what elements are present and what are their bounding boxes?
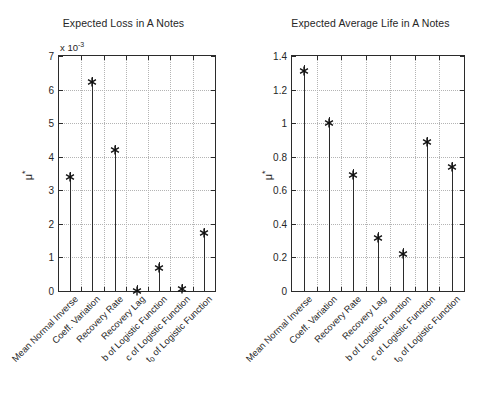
y-axis-label-mu: μ — [22, 174, 34, 180]
plot-area-left: 01234567 — [58, 55, 216, 292]
y-axis-label-star: * — [20, 170, 30, 174]
data-point-marker — [87, 77, 98, 88]
exponent-power: -3 — [78, 41, 84, 48]
data-point-marker — [422, 137, 433, 148]
y-axis-tick-label: 0.8 — [273, 151, 287, 162]
figure-canvas: Expected Loss in A Notes x 10-3 μ* 01234… — [0, 0, 494, 395]
y-axis-tick — [292, 291, 296, 292]
data-point-marker — [176, 284, 187, 295]
chart-title-left: Expected Loss in A Notes — [0, 17, 247, 29]
exponent-mantissa: x 10 — [60, 42, 78, 53]
y-axis-tick-label: 7 — [48, 51, 54, 62]
stem-line — [427, 137, 428, 291]
stem-line — [304, 65, 305, 291]
y-axis-tick-label: 6 — [48, 84, 54, 95]
y-axis-tick-label: 1.2 — [273, 84, 287, 95]
y-axis-tick — [460, 291, 464, 292]
y-axis-tick-label: 2 — [48, 218, 54, 229]
y-axis-label-star: * — [260, 170, 270, 174]
stem-line — [353, 169, 354, 291]
data-point-marker — [446, 162, 457, 173]
data-point-marker — [323, 117, 334, 128]
data-point-marker — [348, 169, 359, 180]
data-point-marker — [373, 232, 384, 243]
data-layer-right — [292, 56, 464, 291]
y-axis-tick — [59, 291, 63, 292]
y-axis-tick-label: 3 — [48, 185, 54, 196]
data-point-marker — [109, 145, 120, 156]
stem-line — [115, 145, 116, 291]
stem-line — [70, 172, 71, 291]
y-axis-tick-label: 1.4 — [273, 51, 287, 62]
stem-line — [452, 162, 453, 291]
y-axis-tick-label: 1 — [281, 118, 287, 129]
data-layer-left — [59, 56, 215, 291]
y-axis-tick — [211, 291, 215, 292]
plot-area-right: 00.20.40.60.811.21.4 — [291, 55, 465, 292]
y-axis-tick-label: 5 — [48, 118, 54, 129]
stem-line — [329, 117, 330, 291]
stem-line — [92, 77, 93, 291]
data-point-marker — [65, 172, 76, 183]
y-axis-tick-label: 4 — [48, 151, 54, 162]
data-point-marker — [154, 262, 165, 273]
chart-title-right: Expected Average Life in A Notes — [247, 17, 494, 29]
chart-panel-expected-loss: Expected Loss in A Notes x 10-3 μ* 01234… — [0, 0, 247, 395]
y-axis-tick-label: 0.6 — [273, 185, 287, 196]
y-axis-tick-label: 0 — [281, 286, 287, 297]
y-axis-tick-label: 0.4 — [273, 218, 287, 229]
data-point-marker — [299, 65, 310, 76]
y-axis-tick-label: 0 — [48, 286, 54, 297]
data-point-marker — [198, 228, 209, 239]
y-axis-exponent-annotation: x 10-3 — [60, 41, 84, 53]
y-axis-label-right: μ* — [260, 170, 275, 180]
y-axis-label-mu: μ — [262, 174, 274, 180]
y-axis-tick-label: 1 — [48, 252, 54, 263]
data-point-marker — [397, 248, 408, 259]
y-axis-tick-label: 0.2 — [273, 252, 287, 263]
y-axis-label-left: μ* — [20, 170, 35, 180]
